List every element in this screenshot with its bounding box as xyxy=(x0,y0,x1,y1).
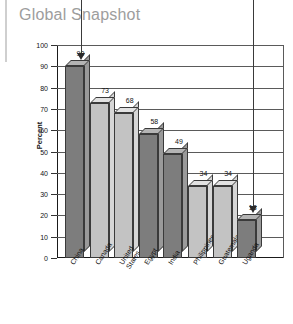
bar-value-label: 49 xyxy=(175,138,183,145)
bar-canada xyxy=(90,97,115,258)
chart-canvas: Global Snapshot Percent 0102030405060708… xyxy=(0,0,293,324)
bar-value-label: 34 xyxy=(200,170,208,177)
y-tick-mark xyxy=(51,130,57,131)
bar-front-face xyxy=(90,103,109,258)
y-tick-label: 50 xyxy=(26,148,48,155)
y-tick-label: 20 xyxy=(26,212,48,219)
y-tick-mark xyxy=(51,66,57,67)
y-tick-label: 60 xyxy=(26,127,48,134)
gridline xyxy=(57,88,284,89)
y-tick-mark xyxy=(51,109,57,110)
arrow-uganda-head-icon xyxy=(249,206,257,213)
y-tick-label: 70 xyxy=(26,105,48,112)
bar-china xyxy=(65,60,90,258)
y-tick-label: 100 xyxy=(26,42,48,49)
left-margin-rule xyxy=(5,0,7,62)
y-tick-label: 40 xyxy=(26,169,48,176)
y-tick-mark xyxy=(51,237,57,238)
y-tick-label: 90 xyxy=(26,63,48,70)
bar-india xyxy=(163,148,188,258)
bar-front-face xyxy=(114,113,133,258)
bar-value-label: 34 xyxy=(224,170,232,177)
bar-front-face xyxy=(139,134,158,258)
bar-value-label: 68 xyxy=(126,97,134,104)
bar-value-label: 73 xyxy=(101,87,109,94)
y-tick-label: 0 xyxy=(26,255,48,262)
y-tick-mark xyxy=(51,194,57,195)
gridline xyxy=(57,45,284,46)
arrow-china-line xyxy=(81,0,82,53)
y-tick-mark xyxy=(51,45,57,46)
y-tick-mark xyxy=(51,152,57,153)
bar-front-face xyxy=(163,154,182,258)
y-tick-label: 30 xyxy=(26,191,48,198)
y-tick-mark xyxy=(51,173,57,174)
bar-value-label: 58 xyxy=(150,118,158,125)
bar-egypt xyxy=(139,128,164,258)
bar-united-states xyxy=(114,107,139,258)
gridline xyxy=(57,66,284,67)
y-tick-mark xyxy=(51,88,57,89)
arrow-uganda-line xyxy=(253,0,254,206)
y-tick-label: 10 xyxy=(26,233,48,240)
y-tick-mark xyxy=(51,258,57,259)
y-tick-mark xyxy=(51,215,57,216)
bar-front-face xyxy=(65,66,84,258)
y-tick-label: 80 xyxy=(26,84,48,91)
arrow-china-head-icon xyxy=(77,53,85,60)
